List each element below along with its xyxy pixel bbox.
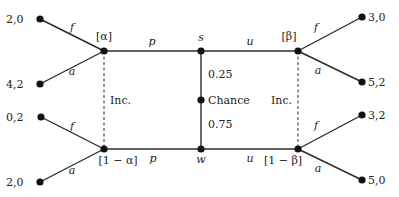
payoff-label: 5,0 [368, 174, 386, 187]
action-label-f: f [313, 21, 320, 34]
prob-lower-label: 0.75 [208, 118, 233, 131]
node-oneMinusAlpha [100, 145, 107, 152]
payoff-label: 2,0 [6, 13, 24, 26]
action-label-a: a [315, 64, 322, 77]
edge-oneMinusBeta-f [298, 115, 362, 149]
node-alpha [100, 47, 107, 54]
terminal-node [36, 15, 43, 22]
chance-label: Chance [208, 94, 250, 107]
edge-beta-a [298, 51, 362, 82]
message-label-bottom-u: u [246, 152, 253, 165]
labels: 2,0f4,2a0,2f2,0a3,0f5,2a3,2f5,0a[α][1 − … [6, 11, 386, 189]
signaling-game-tree: 2,0f4,2a0,2f2,0a3,0f5,2a3,2f5,0a[α][1 − … [0, 0, 399, 197]
action-label-a: a [69, 65, 76, 78]
terminal-node [358, 176, 365, 183]
payoff-label: 3,0 [368, 11, 386, 24]
terminal-node [37, 113, 44, 120]
node-chance [197, 96, 204, 103]
payoff-label: 4,2 [6, 78, 24, 91]
payoff-label: 5,2 [368, 76, 386, 89]
belief-1-minus-alpha-label: [1 − α] [98, 154, 137, 167]
belief-1-minus-beta-label: [1 − β] [264, 154, 302, 167]
terminal-node [36, 80, 43, 87]
info-set-left-label: Inc. [110, 94, 131, 107]
message-label-bottom-p: p [149, 152, 156, 165]
type-w-label: w [196, 153, 206, 166]
action-label-f: f [69, 120, 76, 133]
node-s [197, 47, 204, 54]
node-oneMinusBeta [294, 145, 301, 152]
prob-upper-label: 0.25 [208, 68, 233, 81]
terminal-node [358, 13, 365, 20]
node-beta [294, 47, 301, 54]
edge-oneMinusBeta-a [298, 149, 362, 180]
type-s-label: s [198, 31, 204, 44]
terminal-node [358, 78, 365, 85]
node-w [197, 145, 204, 152]
terminal-node [358, 111, 365, 118]
payoff-label: 2,0 [6, 176, 24, 189]
belief-beta-label: [β] [282, 30, 297, 43]
info-set-right-label: Inc. [271, 94, 292, 107]
action-label-f: f [313, 119, 320, 132]
edge-beta-f [298, 17, 362, 51]
terminal-node [36, 178, 43, 185]
payoff-label: 0,2 [6, 111, 24, 124]
payoff-label: 3,2 [368, 109, 386, 122]
belief-alpha-label: [α] [96, 30, 112, 43]
message-label-top-p: p [148, 35, 155, 48]
action-label-f: f [69, 21, 76, 34]
action-label-a: a [315, 162, 322, 175]
message-label-top-u: u [246, 35, 253, 48]
action-label-a: a [69, 164, 76, 177]
